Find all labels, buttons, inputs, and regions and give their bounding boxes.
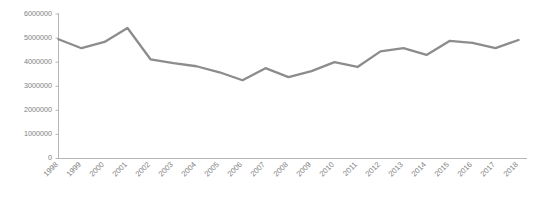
y-axis-tick-label: 2000000: [24, 105, 52, 114]
line-chart: 0100000020000003000000400000050000006000…: [0, 0, 538, 203]
y-axis-tick-label: 5000000: [24, 33, 52, 42]
chart-canvas: 0100000020000003000000400000050000006000…: [0, 0, 538, 203]
y-axis-tick-label: 3000000: [24, 81, 52, 90]
y-axis-tick-label: 4000000: [24, 57, 52, 66]
y-axis-tick-label: 1000000: [24, 129, 52, 138]
y-axis-tick-label: 6000000: [24, 9, 52, 18]
